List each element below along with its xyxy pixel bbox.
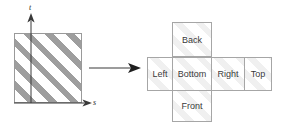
net-cell-bottom-label: Bottom	[178, 69, 207, 79]
maps-to-arrow	[89, 63, 141, 73]
net-cell-front-label: Front	[181, 101, 202, 111]
net-cell-back-label: Back	[182, 35, 202, 45]
net-cell-top-label: Top	[251, 69, 266, 79]
net-cell-right-label: Right	[217, 69, 238, 79]
t-axis-arrow	[27, 13, 34, 103]
net-cell-right: Right	[211, 57, 245, 91]
net-cell-top: Top	[244, 57, 272, 91]
net-cell-left-label: Left	[152, 69, 167, 79]
net-cell-back: Back	[172, 22, 212, 57]
s-axis-arrow	[14, 99, 92, 106]
figure-canvas: t s Back Left Bottom Right Top Fro	[0, 0, 281, 133]
net-cell-bottom: Bottom	[172, 57, 212, 91]
net-cell-left: Left	[147, 57, 173, 91]
net-cell-front: Front	[172, 90, 212, 122]
